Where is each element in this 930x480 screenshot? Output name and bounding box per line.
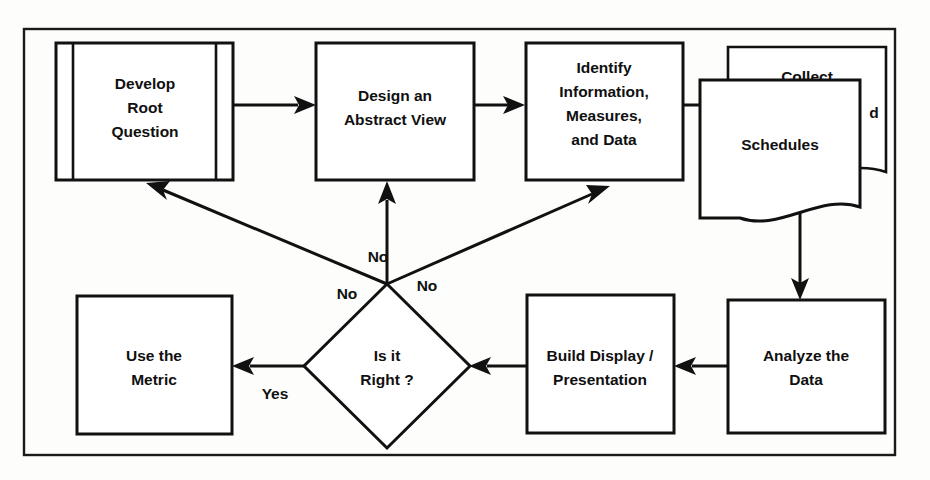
develop-root-question-line-3: Question [111,123,178,140]
is-it-right-line-2: Right ? [360,371,413,388]
design-abstract-view-line-2: Abstract View [344,111,447,128]
edge-label-no-right: No [417,277,438,294]
connector-decision-no-to-develop [146,181,387,284]
node-build-display-presentation: Build Display / Presentation [527,295,674,433]
edge-label-no-left: No [337,285,358,302]
flowchart-svg: Use the Metric --> Collect d [0,0,930,480]
identify-information-line-1: Identify [576,59,631,76]
develop-root-question-line-2: Root [127,99,162,116]
analyze-the-data-line-1: Analyze the [763,347,850,364]
connector-analyze-to-build [674,357,727,375]
connector-decision-no-to-identify [387,185,610,284]
identify-information-line-4: and Data [571,131,637,148]
connector-decision-yes-to-use-metric [232,357,304,375]
node-develop-root-question: Develop Root Question [56,43,233,180]
is-it-right-line-1: Is it [374,347,401,364]
design-abstract-view-line-1: Design an [358,87,432,104]
connector-design-to-identify [474,96,525,114]
connector-decision-no-to-design [378,181,396,284]
node-use-the-metric: Use the Metric [77,296,232,434]
collect-back-document-line-2: d [869,104,878,121]
analyze-the-data-line-2: Data [789,371,823,388]
build-display-line-2: Presentation [553,371,647,388]
develop-root-question-line-1: Develop [115,75,175,92]
connector-develop-to-design [232,96,316,114]
connector-build-to-decision [469,357,526,375]
build-display-line-1: Build Display / [547,347,654,364]
connector-documents-to-analyze [791,213,809,300]
node-analyze-the-data: Analyze the Data [728,300,885,433]
identify-information-line-2: Information, [559,83,649,100]
use-the-metric-line-1: Use the [126,347,182,364]
edge-label-yes: Yes [262,385,289,402]
identify-information-line-3: Measures, [566,107,642,124]
node-identify-information: Identify Information, Measures, and Data [526,43,683,180]
node-schedules-document: Schedules [700,80,860,221]
edge-label-no-center: No [368,248,389,265]
schedules-document-label: Schedules [741,136,819,153]
node-is-it-right: Is it Right ? [304,284,470,448]
use-the-metric-line-2: Metric [131,371,177,388]
flowchart-canvas: Use the Metric --> Collect d [0,0,930,480]
node-design-abstract-view: Design an Abstract View [316,43,474,180]
